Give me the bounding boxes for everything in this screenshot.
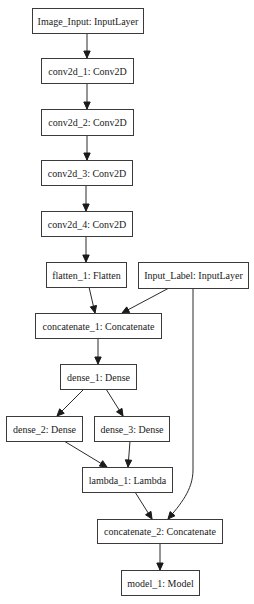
node-label: concatenate_2: Concatenate xyxy=(104,526,216,537)
node-flatten_1: flatten_1: Flatten xyxy=(47,263,127,288)
node-dense_1: dense_1: Dense xyxy=(61,365,137,390)
edge-dense_3-to-lambda_1 xyxy=(125,441,131,467)
model-graph-diagram: Image_Input: InputLayerconv2d_1: Conv2Dc… xyxy=(0,0,254,604)
arrowhead-icon xyxy=(84,102,90,109)
arrowhead-icon xyxy=(84,51,90,58)
edge-line xyxy=(122,288,169,313)
arrowhead-icon xyxy=(146,511,152,519)
arrowhead-icon xyxy=(157,563,163,570)
node-concatenate_1: concatenate_1: Concatenate xyxy=(36,314,162,339)
node-label: dense_1: Dense xyxy=(67,372,131,383)
arrowhead-icon xyxy=(99,461,107,467)
node-lambda_1: lambda_1: Lambda xyxy=(83,468,173,493)
edge-dense_1-to-dense_3 xyxy=(106,389,123,416)
edge-dense_1-to-dense_2 xyxy=(57,389,84,416)
edge-input_label-to-concatenate_1 xyxy=(122,288,169,313)
edge-flatten_1-to-concatenate_1 xyxy=(89,287,97,313)
edge-dense_2-to-lambda_1 xyxy=(64,441,107,467)
node-conv2d_2: conv2d_2: Conv2D xyxy=(42,110,134,136)
node-label: model_1: Model xyxy=(127,578,194,589)
node-image_input: Image_Input: InputLayer xyxy=(33,9,144,34)
node-label: conv2d_4: Conv2D xyxy=(48,219,127,230)
edge-conv2d_1-to-conv2d_2 xyxy=(84,83,90,109)
node-label: concatenate_1: Concatenate xyxy=(43,321,155,332)
node-label: conv2d_3: Conv2D xyxy=(48,168,127,179)
node-label: dense_2: Dense xyxy=(13,424,77,435)
arrowhead-icon xyxy=(117,408,123,416)
node-conv2d_4: conv2d_4: Conv2D xyxy=(42,212,133,237)
node-dense_2: dense_2: Dense xyxy=(7,417,83,442)
node-input_label: Input_Label: InputLayer xyxy=(139,263,249,289)
node-label: lambda_1: Lambda xyxy=(89,475,167,486)
edge-conv2d_3-to-conv2d_4 xyxy=(83,185,89,211)
nodes-layer: Image_Input: InputLayerconv2d_1: Conv2Dc… xyxy=(7,9,249,596)
arrowhead-icon xyxy=(84,153,90,160)
node-dense_3: dense_3: Dense xyxy=(95,417,170,442)
arrowhead-icon xyxy=(125,460,131,467)
node-concatenate_2: concatenate_2: Concatenate xyxy=(98,520,223,544)
arrowhead-icon xyxy=(168,512,175,519)
edge-concatenate_2-to-model_1 xyxy=(157,543,163,570)
edge-conv2d_4-to-flatten_1 xyxy=(83,236,89,262)
node-label: Image_Input: InputLayer xyxy=(38,16,139,27)
arrowhead-icon xyxy=(83,255,89,262)
node-model_1: model_1: Model xyxy=(122,571,200,596)
node-label: conv2d_2: Conv2D xyxy=(48,117,127,128)
edge-line xyxy=(64,441,107,467)
node-label: Input_Label: InputLayer xyxy=(144,270,243,281)
node-conv2d_3: conv2d_3: Conv2D xyxy=(42,161,133,186)
node-conv2d_1: conv2d_1: Conv2D xyxy=(42,59,134,84)
arrowhead-icon xyxy=(95,357,101,364)
node-label: conv2d_1: Conv2D xyxy=(48,66,127,77)
arrowhead-icon xyxy=(83,204,89,211)
arrowhead-icon xyxy=(122,307,130,313)
edge-lambda_1-to-concatenate_2 xyxy=(135,492,152,519)
edge-conv2d_2-to-conv2d_3 xyxy=(84,135,90,160)
edge-concatenate_1-to-dense_1 xyxy=(95,338,101,364)
edge-image_input-to-conv2d_1 xyxy=(84,33,90,58)
node-label: flatten_1: Flatten xyxy=(52,270,121,281)
node-label: dense_3: Dense xyxy=(100,424,164,435)
arrowhead-icon xyxy=(90,305,96,313)
